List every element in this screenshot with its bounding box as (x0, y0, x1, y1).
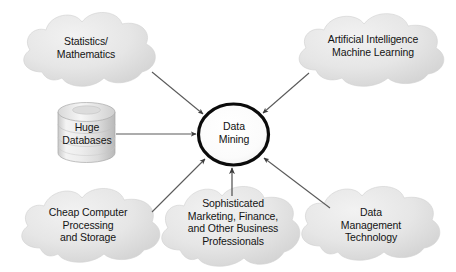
cloud-sophisticated-professionals (162, 186, 300, 266)
cloud-cheap-computer-processing (22, 188, 160, 262)
diagram-canvas (0, 0, 456, 272)
cloud-data-management-technology (302, 186, 440, 260)
cloud-artificial-intelligence (299, 14, 444, 87)
data-mining-diagram: Statistics/ Mathematics Artificial Intel… (0, 0, 456, 272)
node-data-mining (199, 104, 269, 165)
arrow-artificial-intelligence-to-center (263, 73, 309, 113)
cloud-statistics-mathematics (24, 12, 156, 86)
arrow-statistics-to-center (152, 72, 203, 114)
cylinder-huge-databases (58, 103, 115, 163)
